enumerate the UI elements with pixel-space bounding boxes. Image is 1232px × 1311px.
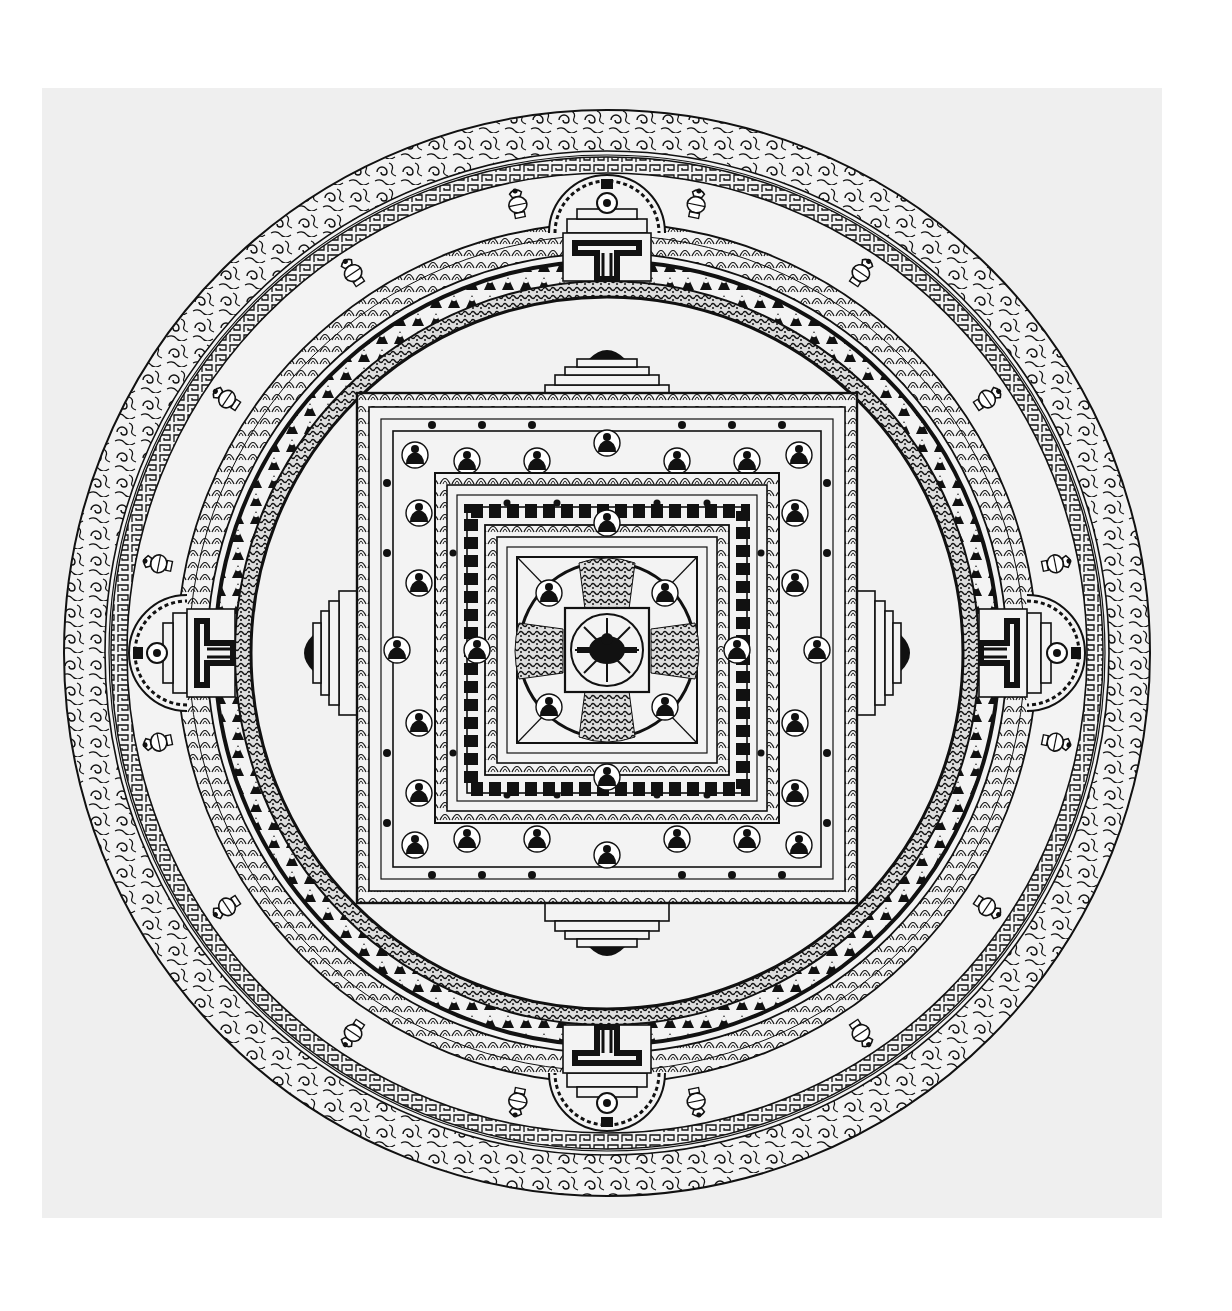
mandala-drawing bbox=[0, 0, 1232, 1311]
palace bbox=[304, 350, 910, 956]
